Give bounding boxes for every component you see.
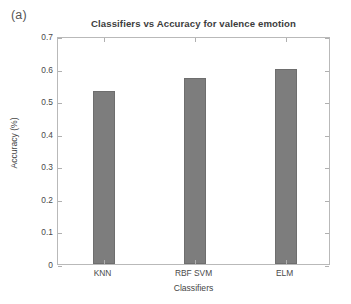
- y-tick-mark: [58, 103, 62, 104]
- y-tick-mark: [58, 233, 62, 234]
- y-tick-mark: [58, 201, 62, 202]
- y-tick-mark: [58, 136, 62, 137]
- x-tick-mark: [195, 260, 196, 264]
- y-axis-title: Accuracy (%): [9, 98, 19, 188]
- x-axis-tick-labels: KNNRBF SVMELM: [57, 268, 330, 282]
- x-tick-label: ELM: [276, 268, 293, 278]
- y-tick-label: 0: [48, 260, 53, 270]
- bar-elm: [275, 69, 297, 264]
- y-axis-tick-labels: 00.10.20.30.40.50.60.7: [20, 37, 53, 265]
- x-tick-mark-top: [286, 38, 287, 42]
- y-tick-mark-right: [325, 38, 329, 39]
- x-tick-mark: [286, 260, 287, 264]
- y-tick-mark-right: [325, 136, 329, 137]
- y-tick-label: 0.7: [41, 32, 53, 42]
- y-tick-mark-right: [325, 103, 329, 104]
- y-tick-mark: [58, 168, 62, 169]
- y-tick-mark-right: [325, 201, 329, 202]
- bar-rbf-svm: [184, 78, 206, 264]
- x-axis-title: Classifiers: [57, 283, 330, 293]
- x-tick-label: KNN: [94, 268, 112, 278]
- figure-panel: (a) Classifiers vs Accuracy for valence …: [0, 0, 351, 304]
- x-tick-mark-top: [195, 38, 196, 42]
- y-tick-label: 0.2: [41, 195, 53, 205]
- y-tick-label: 0.5: [41, 97, 53, 107]
- y-tick-mark: [58, 38, 62, 39]
- chart-title: Classifiers vs Accuracy for valence emot…: [57, 18, 330, 29]
- y-tick-label: 0.1: [41, 227, 53, 237]
- y-tick-label: 0.4: [41, 130, 53, 140]
- y-tick-mark-right: [325, 71, 329, 72]
- y-tick-mark: [58, 71, 62, 72]
- y-tick-mark-right: [325, 168, 329, 169]
- y-tick-label: 0.3: [41, 162, 53, 172]
- bar-knn: [93, 91, 115, 264]
- x-tick-mark: [104, 260, 105, 264]
- y-tick-mark-right: [325, 266, 329, 267]
- subfigure-label: (a): [11, 8, 27, 22]
- x-tick-mark-top: [104, 38, 105, 42]
- plot-area: [57, 37, 330, 265]
- y-tick-label: 0.6: [41, 65, 53, 75]
- y-tick-mark: [58, 266, 62, 267]
- x-tick-label: RBF SVM: [175, 268, 212, 278]
- y-tick-mark-right: [325, 233, 329, 234]
